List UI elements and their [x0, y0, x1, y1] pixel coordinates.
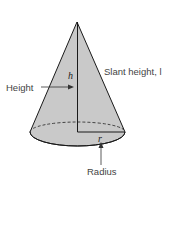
radius-label: Radius — [87, 167, 117, 177]
height-label: Height — [6, 83, 33, 93]
h-label: h — [68, 71, 73, 81]
r-label: r — [98, 134, 102, 144]
slant-height-label: Slant height, l — [104, 67, 162, 77]
